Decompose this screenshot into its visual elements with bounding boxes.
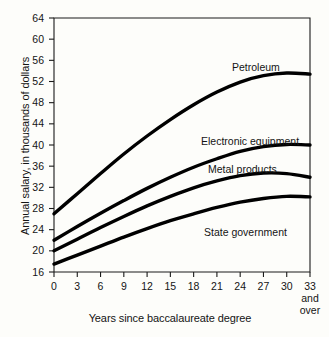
x-tick-label-sub: and bbox=[297, 292, 323, 304]
x-axis-title: Years since baccalaureate degree bbox=[55, 312, 285, 324]
series-label-1: Electronic equipment bbox=[201, 136, 299, 147]
series-label-0: Petroleum bbox=[232, 62, 280, 73]
x-tick-label: 24 bbox=[227, 280, 253, 292]
x-axis-tick-labels: 03691215182124273033andover bbox=[0, 0, 329, 337]
x-tick-label: 27 bbox=[250, 280, 276, 292]
x-tick-label: 33andover bbox=[297, 280, 323, 316]
x-tick-label: 30 bbox=[274, 280, 300, 292]
y-axis-title: Annual salary, in thousands of dollars bbox=[16, 16, 34, 276]
x-tick-label: 0 bbox=[41, 280, 67, 292]
x-tick-label: 9 bbox=[111, 280, 137, 292]
x-tick-label-sub: over bbox=[297, 304, 323, 316]
series-label-2: Metal products bbox=[208, 164, 277, 175]
x-tick-label: 15 bbox=[157, 280, 183, 292]
chart-container: 16202428323640444852566064 0369121518212… bbox=[0, 0, 329, 337]
x-tick-label: 21 bbox=[204, 280, 230, 292]
series-label-3: State government bbox=[204, 227, 287, 238]
x-tick-label: 18 bbox=[181, 280, 207, 292]
x-tick-label: 3 bbox=[64, 280, 90, 292]
x-tick-label: 6 bbox=[88, 280, 114, 292]
x-tick-label: 12 bbox=[134, 280, 160, 292]
